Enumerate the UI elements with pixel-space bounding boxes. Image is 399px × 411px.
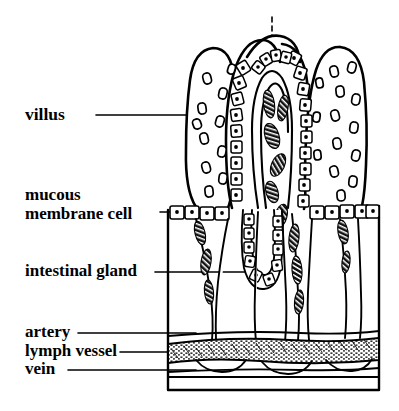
diagram-canvas: villus mucous membrane cell intestinal g… [0, 0, 399, 411]
label-artery: artery [25, 323, 70, 341]
label-lymph-vessel: lymph vessel [25, 342, 117, 360]
label-intestinal-gland: intestinal gland [25, 262, 137, 280]
lymph-vessel-band [168, 338, 379, 363]
label-villus: villus [25, 105, 65, 124]
label-vein: vein [25, 360, 55, 378]
label-mucous-membrane-cell-line1: mucous [25, 185, 132, 204]
label-mucous-membrane-cell-line2: membrane cell [25, 204, 132, 223]
artery-layer [168, 331, 379, 336]
label-mucous-membrane-cell: mucous membrane cell [25, 185, 132, 223]
